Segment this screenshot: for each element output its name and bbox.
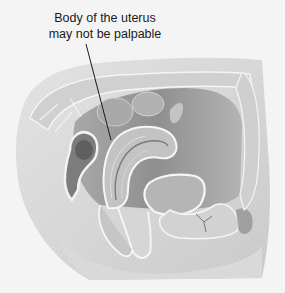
intestine-loop [97,98,133,126]
bladder [144,175,204,215]
pelvis-illustration [0,0,285,293]
